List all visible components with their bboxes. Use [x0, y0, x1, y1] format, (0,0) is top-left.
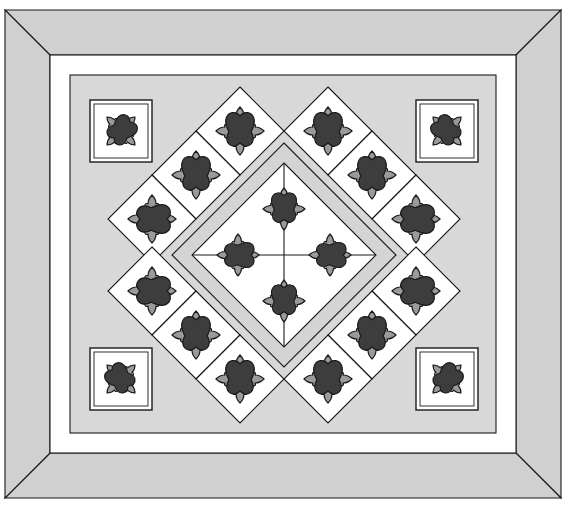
outer-border-top: [5, 10, 561, 55]
outer-border-left: [5, 10, 50, 498]
quilt-diagram-stage: [0, 0, 569, 507]
corner-block-bottom-right[interactable]: [416, 348, 478, 410]
corner-block-bottom-left[interactable]: [90, 348, 152, 410]
outer-border-bottom: [5, 453, 561, 498]
outer-border-right: [516, 10, 561, 498]
corner-block-top-left[interactable]: [90, 100, 152, 162]
quilt-diagram: [0, 0, 569, 507]
corner-block-top-right[interactable]: [416, 100, 478, 162]
